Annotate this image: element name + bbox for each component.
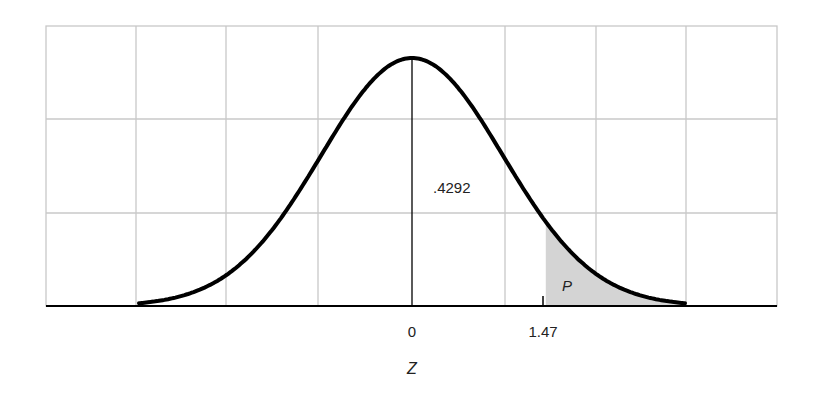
- tail-p-label: P: [562, 277, 572, 294]
- area-value-label: .4292: [433, 179, 471, 196]
- x-axis-label: Z: [406, 360, 418, 377]
- normal-distribution-chart: .4292 P 0 1.47 Z: [0, 0, 814, 403]
- tick-label-1-47: 1.47: [528, 323, 557, 340]
- tick-label-zero: 0: [408, 323, 416, 340]
